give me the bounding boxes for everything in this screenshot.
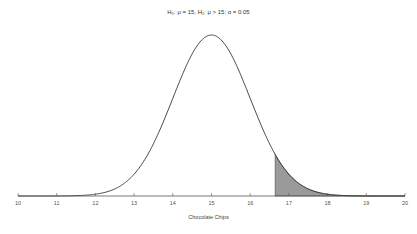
density-curve [18,35,405,196]
x-tick-label: 20 [402,200,408,206]
normal-distribution-plot: 1011121314151617181920 [0,0,417,234]
x-tick-label: 18 [325,200,331,206]
x-tick-label: 12 [92,200,98,206]
x-tick-label: 16 [247,200,253,206]
x-tick-label: 13 [131,200,137,206]
x-tick-label: 17 [286,200,292,206]
x-tick-label: 14 [170,200,176,206]
x-tick-label: 11 [54,200,60,206]
x-tick-label: 15 [208,200,214,206]
x-tick-label: 19 [363,200,369,206]
x-axis-ticks: 1011121314151617181920 [15,193,408,206]
rejection-region [275,154,405,196]
x-axis-label: Chocolate Chips [0,214,417,220]
x-tick-label: 10 [15,200,21,206]
